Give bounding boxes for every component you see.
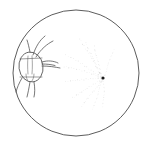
stipple-dot bbox=[70, 57, 71, 58]
stipple-dot bbox=[89, 86, 90, 87]
stipple-dot bbox=[93, 83, 94, 84]
stipple-dot bbox=[88, 48, 89, 49]
stipple-dot bbox=[100, 84, 101, 85]
stipple-dot bbox=[95, 73, 96, 74]
stipple-dot bbox=[79, 39, 80, 40]
stipple-dot bbox=[94, 63, 95, 64]
stipple-dot bbox=[84, 66, 85, 67]
stipple-dot bbox=[105, 72, 106, 73]
stipple-dot bbox=[98, 76, 99, 77]
stipple-dot bbox=[93, 71, 94, 72]
stipple-dot bbox=[93, 107, 94, 108]
stipple-dot bbox=[98, 85, 99, 86]
stipple-dot bbox=[87, 50, 88, 51]
stipple-dot bbox=[68, 81, 69, 82]
stipple-dot bbox=[99, 87, 100, 88]
stipple-dot bbox=[96, 98, 97, 99]
stipple-dot bbox=[98, 78, 99, 79]
stipple-dot bbox=[82, 63, 83, 64]
stipple-dot bbox=[104, 75, 105, 76]
stipple-dot bbox=[64, 67, 65, 68]
stipple-dot bbox=[85, 49, 86, 50]
stipple-dot bbox=[90, 56, 91, 57]
stipple-dot bbox=[98, 74, 99, 75]
stipple-dot bbox=[86, 44, 87, 45]
stipple-dot bbox=[111, 56, 112, 57]
stipple-dot bbox=[70, 80, 71, 81]
stipple-dot bbox=[95, 54, 96, 55]
stipple-dot bbox=[91, 69, 92, 70]
stipple-dot bbox=[97, 98, 98, 99]
stipple-dot bbox=[88, 79, 89, 80]
stipple-dot bbox=[95, 89, 96, 90]
stipple-dot bbox=[87, 47, 88, 48]
stipple-dot bbox=[94, 46, 95, 47]
stipple-dot bbox=[98, 61, 99, 62]
stipple-dot bbox=[103, 84, 104, 85]
stipple-dot bbox=[83, 80, 84, 81]
figure-background bbox=[0, 0, 150, 151]
stipple-dot bbox=[102, 106, 103, 107]
stipple-dot bbox=[96, 57, 97, 58]
stipple-dot bbox=[90, 78, 91, 79]
figure-root bbox=[0, 0, 150, 151]
stipple-dot bbox=[86, 78, 87, 79]
stipple-dot bbox=[80, 92, 81, 93]
stipple-dot bbox=[87, 98, 88, 99]
stipple-dot bbox=[98, 71, 99, 72]
stipple-dot bbox=[99, 81, 100, 82]
stipple-dot bbox=[99, 89, 100, 90]
stipple-dot bbox=[82, 71, 83, 72]
stipple-convergence-node bbox=[101, 76, 104, 79]
stipple-dot bbox=[102, 104, 103, 105]
stipple-dot bbox=[101, 81, 102, 82]
stipple-dot bbox=[85, 89, 86, 90]
stipple-dot bbox=[98, 91, 99, 92]
stipple-dot bbox=[100, 69, 101, 70]
stipple-dot bbox=[84, 45, 85, 46]
stipple-dot bbox=[100, 77, 101, 78]
stipple-dot bbox=[104, 88, 105, 89]
stipple-dot bbox=[76, 69, 77, 70]
stipple-dot bbox=[97, 67, 98, 68]
stipple-dot bbox=[113, 52, 114, 53]
stipple-dot bbox=[102, 81, 103, 82]
stipple-dot bbox=[109, 60, 110, 61]
stipple-dot bbox=[97, 95, 98, 96]
stipple-dot bbox=[76, 94, 77, 95]
stipple-dot bbox=[91, 58, 92, 59]
stipple-dot bbox=[74, 68, 75, 69]
stipple-dot bbox=[94, 49, 95, 50]
stipple-dot bbox=[102, 103, 103, 104]
stipple-dot bbox=[77, 79, 78, 80]
stipple-dot bbox=[96, 55, 97, 56]
stipple-dot bbox=[102, 80, 103, 81]
stipple-dot bbox=[106, 71, 107, 72]
stipple-dot bbox=[97, 81, 98, 82]
stipple-dot bbox=[73, 58, 74, 59]
stipple-dot bbox=[95, 66, 96, 67]
stipple-dot bbox=[107, 65, 108, 66]
stipple-dot bbox=[103, 95, 104, 96]
stipple-dot bbox=[90, 53, 91, 54]
stipple-dot bbox=[93, 61, 94, 62]
stipple-dot bbox=[79, 80, 80, 81]
stipple-dot bbox=[65, 81, 66, 82]
stipple-dot bbox=[89, 72, 90, 73]
stipple-dot bbox=[73, 80, 74, 81]
stipple-dot bbox=[85, 101, 86, 102]
stipple-dot bbox=[78, 94, 79, 95]
microscope-field-illustration bbox=[0, 0, 150, 151]
stipple-dot bbox=[106, 68, 107, 69]
stipple-dot bbox=[104, 75, 105, 76]
stipple-dot bbox=[87, 88, 88, 89]
stipple-dot bbox=[80, 63, 81, 64]
stipple-dot bbox=[89, 69, 90, 70]
stipple-dot bbox=[93, 58, 94, 59]
stipple-dot bbox=[81, 106, 82, 107]
stipple-dot bbox=[89, 95, 90, 96]
stipple-dot bbox=[98, 93, 99, 94]
stipple-dot bbox=[94, 105, 95, 106]
stipple-dot bbox=[95, 51, 96, 52]
stipple-dot bbox=[99, 72, 100, 73]
